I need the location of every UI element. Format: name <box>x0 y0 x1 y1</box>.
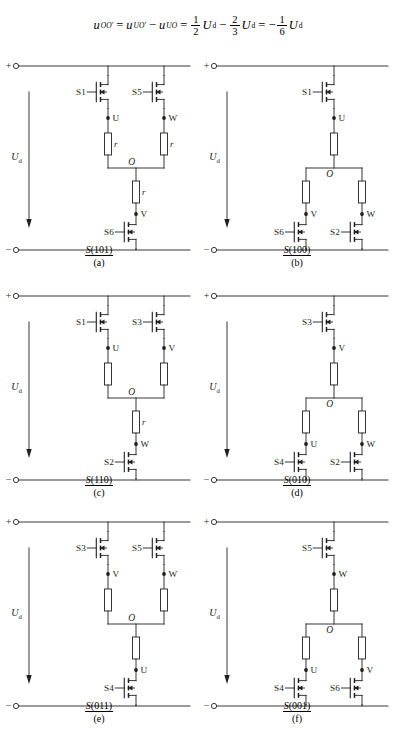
mosfet-label: S6 <box>104 227 114 237</box>
equation-ud-3: U <box>289 18 298 33</box>
equation-equals-3: = <box>258 18 265 33</box>
resistor-label: r <box>114 139 118 149</box>
mosfet-label: S1 <box>302 87 312 97</box>
fraction-1-denominator: 2 <box>191 25 200 37</box>
circuit-background <box>0 52 198 276</box>
equation-ud-2-sub: d <box>252 21 256 30</box>
equation-ud-1: U <box>202 18 211 33</box>
caption-state-a: S(101) <box>85 244 114 256</box>
resistor-right <box>161 363 168 385</box>
positive-terminal[interactable] <box>211 63 216 68</box>
circuit-background <box>198 282 396 506</box>
fraction-3-denominator: 6 <box>277 25 286 37</box>
caption-d: S(010)(d) <box>198 474 396 498</box>
caption-a: S(101)(a) <box>0 244 198 268</box>
ud-label-sub: d <box>217 387 221 394</box>
caption-state-value: (110) <box>91 474 112 485</box>
equation-equals-1: = <box>116 18 123 33</box>
caption-f: S(001)(f) <box>198 700 396 724</box>
mosfet-label: S4 <box>274 683 284 693</box>
node-label-U: U <box>141 665 148 675</box>
equation-term1-sub: UO′ <box>134 21 146 30</box>
positive-terminal-sign: + <box>204 60 210 71</box>
node-label-U: U <box>113 343 120 353</box>
resistor-body <box>133 637 140 659</box>
circuit-diagram-d: +−UdS3VOUWS4S2 <box>198 282 396 506</box>
equation-minus-2: − <box>219 18 226 33</box>
caption-e: S(011)(e) <box>0 700 198 724</box>
node-o-label: O <box>326 399 333 409</box>
positive-terminal[interactable] <box>211 519 216 524</box>
caption-state-c: S(110) <box>85 474 113 486</box>
circuit-background <box>0 508 198 732</box>
resistor-mid <box>133 637 140 659</box>
equation-term2-sub: UO <box>166 21 177 30</box>
node-label-W: W <box>339 569 348 579</box>
caption-index-f: (f) <box>198 712 396 724</box>
resistor-body <box>331 363 338 385</box>
caption-state-value: (011) <box>91 700 112 711</box>
circuit-svg-a: +−UdS1S5UWrrOrVS6 <box>0 52 198 276</box>
resistor-body <box>303 411 310 433</box>
circuit-svg-c: +−UdS1S3UVOrWS2 <box>0 282 198 506</box>
node-label-V: V <box>169 343 176 353</box>
resistor-right <box>359 637 366 659</box>
resistor-body <box>105 133 112 155</box>
mosfet-label: S6 <box>330 683 340 693</box>
positive-terminal-sign: + <box>204 516 210 527</box>
resistor-right <box>161 589 168 611</box>
equation-lhs-sub: OO′ <box>101 21 113 30</box>
positive-terminal[interactable] <box>211 293 216 298</box>
circuit-background <box>198 52 396 276</box>
caption-state-value: (010) <box>289 474 311 485</box>
mosfet-label: S2 <box>330 227 340 237</box>
resistor-body <box>359 637 366 659</box>
resistor-body <box>303 181 310 203</box>
resistor-label: r <box>170 139 174 149</box>
positive-terminal[interactable] <box>13 63 18 68</box>
caption-index-e: (e) <box>0 712 198 724</box>
resistor-top <box>331 363 338 385</box>
equation-minus-3: − <box>268 18 275 33</box>
caption-state-value: (001) <box>289 700 311 711</box>
resistor-left <box>105 363 112 385</box>
mosfet-label: S3 <box>302 317 312 327</box>
node-o-label: O <box>128 157 135 167</box>
circuit-diagram-e: +−UdS3S5VWOUS4 <box>0 508 198 732</box>
mosfet-label: S4 <box>104 683 114 693</box>
node-label-V: V <box>367 665 374 675</box>
resistor-body <box>105 363 112 385</box>
resistor-body <box>161 363 168 385</box>
equation-lhs: u <box>93 18 99 33</box>
circuit-background <box>198 508 396 732</box>
caption-index-b: (b) <box>198 256 396 268</box>
ud-label-sub: d <box>19 613 23 620</box>
equation-minus-1: − <box>149 18 156 33</box>
caption-state-d: S(010) <box>283 474 312 486</box>
caption-index-d: (d) <box>198 486 396 498</box>
node-label-U: U <box>339 113 346 123</box>
mosfet-label: S3 <box>76 543 86 553</box>
resistor-body <box>359 411 366 433</box>
node-label-V: V <box>339 343 346 353</box>
circuit-svg-e: +−UdS3S5VWOUS4 <box>0 508 198 732</box>
fraction-3-numerator: 1 <box>277 14 286 25</box>
equation-line: uOO′ = uUO′ − uUO = 1 2 Ud − 2 3 Ud = − … <box>0 14 396 37</box>
resistor-right <box>359 181 366 203</box>
positive-terminal[interactable] <box>13 519 18 524</box>
resistor-top <box>331 133 338 155</box>
fraction-2-denominator: 3 <box>230 25 239 37</box>
node-o-label: O <box>326 625 333 635</box>
resistor-left <box>303 411 310 433</box>
caption-state-value: (100) <box>289 244 311 255</box>
mosfet-label: S2 <box>104 457 114 467</box>
caption-state-b: S(100) <box>283 244 312 256</box>
mosfet-label: S5 <box>132 543 142 553</box>
node-label-V: V <box>141 209 148 219</box>
node-o-label: O <box>128 613 135 623</box>
equation-equals-2: = <box>180 18 187 33</box>
positive-terminal[interactable] <box>13 293 18 298</box>
equation-ud-2: U <box>242 18 251 33</box>
node-label-W: W <box>169 113 178 123</box>
resistor-body <box>331 589 338 611</box>
